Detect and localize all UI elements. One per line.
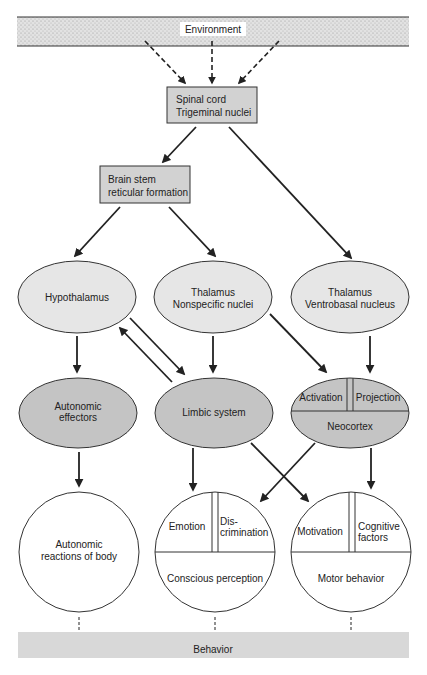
svg-text:Dis-: Dis- [220, 516, 238, 527]
svg-text:Motivation: Motivation [297, 526, 343, 537]
svg-text:Projection: Projection [356, 392, 400, 403]
svg-text:Activation: Activation [299, 392, 342, 403]
limbic-system-node: Limbic system [155, 378, 273, 448]
neocortex-node: Activation Projection Neocortex [291, 376, 409, 448]
pain-pathway-diagram: Environment Spinal cord Trigeminal nucle… [0, 0, 427, 675]
behavior-label: Behavior [193, 644, 233, 655]
svg-text:Autonomic: Autonomic [55, 539, 102, 550]
conscious-perception-node: Emotion Dis- crimination Conscious perce… [155, 490, 275, 612]
svg-text:Ventrobasal nucleus: Ventrobasal nucleus [305, 299, 395, 310]
behavior-band: Behavior [18, 632, 409, 658]
svg-text:Conscious perception: Conscious perception [167, 573, 263, 584]
svg-text:Spinal cord: Spinal cord [176, 94, 226, 105]
motor-behavior-node: Motivation Cognitive factors Motor behav… [291, 490, 411, 612]
svg-text:reticular formation: reticular formation [108, 187, 188, 198]
svg-text:Autonomic: Autonomic [54, 401, 101, 412]
svg-text:Brain stem: Brain stem [108, 174, 156, 185]
svg-text:Neocortex: Neocortex [327, 421, 373, 432]
svg-text:effectors: effectors [59, 412, 97, 423]
thalamus-ventrobasal-node: Thalamus Ventrobasal nucleus [291, 261, 409, 333]
spinal-cord-box: Spinal cord Trigeminal nuclei [167, 87, 257, 123]
svg-text:Trigeminal nuclei: Trigeminal nuclei [176, 107, 251, 118]
svg-text:Cognitive: Cognitive [358, 521, 400, 532]
svg-text:Emotion: Emotion [169, 521, 206, 532]
environment-label: Environment [185, 24, 241, 35]
autonomic-effectors-node: Autonomic effectors [19, 378, 137, 448]
svg-text:Hypothalamus: Hypothalamus [45, 292, 109, 303]
svg-text:factors: factors [358, 532, 388, 543]
environment-band: Environment [17, 17, 409, 46]
autonomic-reactions-node: Autonomic reactions of body [19, 492, 139, 612]
hypothalamus-node: Hypothalamus [18, 261, 136, 333]
svg-text:Thalamus: Thalamus [191, 287, 235, 298]
svg-text:crimination: crimination [220, 527, 268, 538]
svg-text:reactions of body: reactions of body [41, 551, 117, 562]
svg-text:Motor behavior: Motor behavior [318, 573, 385, 584]
brain-stem-box: Brain stem reticular formation [100, 166, 190, 203]
environment-arrows [145, 41, 279, 83]
svg-text:Thalamus: Thalamus [328, 287, 372, 298]
svg-text:Limbic system: Limbic system [182, 407, 245, 418]
thalamus-nonspecific-node: Thalamus Nonspecific nuclei [154, 261, 272, 333]
svg-text:Nonspecific nuclei: Nonspecific nuclei [173, 299, 254, 310]
